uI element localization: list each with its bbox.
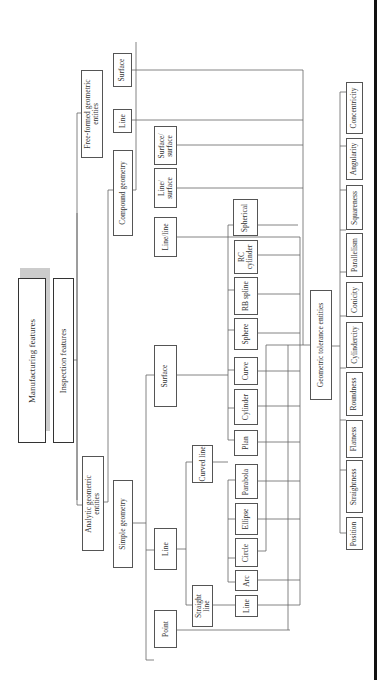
node-curved-line: Curved line — [192, 445, 213, 483]
node-label: Line — [243, 599, 251, 613]
node-label: Plan — [242, 436, 250, 449]
node-label: Free-formed geometric entities — [84, 79, 100, 148]
node-label: Position — [351, 521, 359, 546]
node-label: Compound geometry — [119, 161, 127, 225]
node-cylinder: Cylinder — [234, 389, 258, 425]
node-straightness: Straightness — [346, 460, 363, 513]
node-surface: Surface — [154, 345, 177, 407]
node-simple-geometry: Simple geometry — [113, 480, 133, 568]
node-manufacturing-features: Manufacturing features — [18, 278, 46, 443]
node-ff-line: Line — [113, 109, 132, 133]
feature-hierarchy-diagram: Manufacturing features Inspection featur… — [0, 0, 383, 680]
node-angularity: Angularity — [346, 138, 363, 180]
node-label: Parallelism — [351, 238, 359, 272]
node-inspection-features: Inspection features — [53, 278, 74, 443]
node-label: Ellipse — [243, 509, 251, 530]
node-label: Manufacturing features — [28, 318, 36, 402]
node-label: Circle — [242, 543, 250, 561]
node-circle: Circle — [235, 538, 258, 567]
node-free-formed-geometric-entities: Free-formed geometric entities — [81, 70, 103, 158]
node-label: Flatness — [351, 427, 359, 452]
node-label: Spherical — [242, 203, 250, 231]
node-rb-spline: RB spline — [234, 277, 258, 315]
node-label: Straightness — [351, 468, 359, 505]
node-straight-line: Straight line — [192, 585, 213, 627]
node-flatness: Flatness — [346, 420, 363, 458]
node-surface-surface: Surface/ surface — [154, 126, 177, 165]
node-label: RB spline — [242, 281, 250, 311]
node-label: Concentricity — [351, 88, 359, 129]
node-sphere: Sphere — [234, 318, 258, 350]
node-label: Sphere — [242, 324, 250, 345]
node-label: Cylindercity — [351, 326, 359, 364]
node-label: Line/ surface — [158, 177, 174, 199]
node-point: Point — [154, 610, 177, 648]
node-label: Angularity — [351, 143, 359, 176]
node-ff-surface: Surface — [113, 53, 132, 87]
node-label: Surface — [162, 365, 170, 388]
node-geometric-tolerance-entities: Geometric tolerance entities — [310, 290, 332, 400]
node-roundness: Roundness — [346, 372, 363, 416]
node-concentricity: Concentricity — [346, 82, 363, 134]
node-line-surface: Line/ surface — [154, 168, 177, 208]
node-line-leaf: Line — [235, 595, 258, 617]
node-label: Line — [162, 542, 170, 556]
node-label: Cylinder — [242, 394, 250, 420]
node-label: Arc — [243, 575, 251, 586]
node-label: Inspection features — [60, 328, 68, 392]
node-spherical: Spherical — [233, 199, 258, 236]
node-position: Position — [346, 517, 363, 550]
node-label: Curved line — [199, 446, 207, 481]
node-label: Analytic geometric entities — [85, 475, 101, 533]
node-compound-geometry: Compound geometry — [113, 150, 133, 236]
node-label: Geometric tolerance entities — [317, 303, 325, 388]
node-label: Line — [119, 114, 127, 128]
node-parallelism: Parallelism — [346, 233, 363, 277]
node-conicity: Conicity — [346, 282, 363, 317]
node-analytic-geometric-entities: Analytic geometric entities — [82, 456, 104, 551]
node-label: Roundness — [351, 378, 359, 411]
node-rc-cylinder: RC cylinder — [234, 240, 258, 274]
node-squareness: Squareness — [346, 185, 363, 230]
node-label: Straight line — [195, 594, 211, 618]
node-curve: Curve — [234, 357, 258, 385]
node-label: Surface — [119, 59, 127, 82]
node-line: Line — [154, 528, 177, 570]
node-label: Conicity — [351, 287, 359, 313]
node-cylindricity: Cylindercity — [346, 322, 363, 368]
node-label: Squareness — [351, 191, 359, 225]
node-parabola: Parabola — [235, 464, 258, 499]
node-plan: Plan — [234, 430, 258, 456]
node-label: Parabola — [243, 468, 251, 494]
node-label: RC cylinder — [238, 245, 254, 270]
node-label: Point — [162, 621, 170, 637]
node-arc: Arc — [235, 570, 258, 591]
page-edge-border — [374, 0, 377, 680]
node-label: Simple geometry — [119, 498, 127, 549]
node-ellipse: Ellipse — [235, 503, 258, 535]
node-label: Line/line — [162, 223, 170, 250]
node-line-line: Line/line — [154, 217, 177, 257]
node-label: Curve — [242, 362, 250, 380]
node-label: Surface/ surface — [158, 133, 174, 158]
